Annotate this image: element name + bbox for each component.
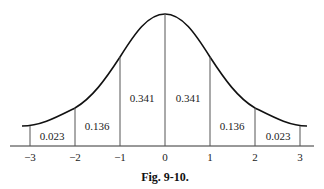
tick-label: −2 — [69, 151, 81, 163]
tick-label: 2 — [252, 151, 258, 163]
tick-label: −3 — [24, 151, 36, 163]
area-label: 0.341 — [176, 92, 201, 104]
area-label: 0.023 — [40, 130, 65, 142]
area-label: 0.023 — [266, 130, 291, 142]
tick-label: 0 — [162, 151, 168, 163]
tick-label: −1 — [114, 151, 126, 163]
area-label: 0.136 — [85, 120, 110, 132]
tick-label: 3 — [297, 151, 303, 163]
area-label: 0.136 — [220, 120, 245, 132]
tick-label: 1 — [207, 151, 213, 163]
figure-caption: Fig. 9-10. — [141, 170, 189, 184]
normal-curve-diagram: 0.023 0.136 0.341 0.341 0.136 0.023 −3 −… — [0, 0, 324, 189]
area-label: 0.341 — [130, 92, 155, 104]
